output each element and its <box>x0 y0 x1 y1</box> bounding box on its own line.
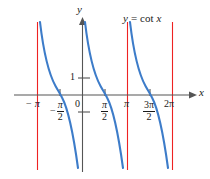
fraction-numerator: 3π <box>143 100 155 112</box>
x-axis-arrowhead <box>189 92 197 99</box>
cotangent-graph-figure: y = cot x y x 1 0 − π − π 2 π 2 <box>0 0 210 179</box>
x-tick-label-minus-pi-over-2: − π 2 <box>50 100 64 122</box>
graph-canvas <box>0 0 210 179</box>
x-tick-label-pi: π <box>124 99 129 109</box>
x-tick-label-2pi: 2π <box>164 99 174 109</box>
x-tick-label-zero: 0 <box>75 99 80 109</box>
x-tick-label-minus-pi: − π <box>26 99 40 109</box>
equation-label: y = cot x <box>123 13 161 24</box>
fraction-denominator: 2 <box>57 112 64 123</box>
fraction-numerator: π <box>101 100 108 112</box>
y-tick-label-one: 1 <box>70 72 75 82</box>
x-tick-label-pi-over-2: π 2 <box>101 100 108 122</box>
fraction-numerator: π <box>57 100 64 112</box>
pi-glyph: π <box>35 99 40 109</box>
minus-sign: − <box>50 106 56 116</box>
y-axis-label: y <box>77 4 82 15</box>
x-tick-label-3pi-over-2: 3π 2 <box>143 100 155 122</box>
fraction-denominator: 2 <box>143 112 155 123</box>
x-axis-label: x <box>199 87 204 98</box>
minus-sign: − <box>26 99 32 109</box>
equation-y: y <box>123 13 128 24</box>
equation-x: x <box>157 13 162 24</box>
equation-equals: = <box>131 13 137 24</box>
equation-cot: cot <box>140 13 153 24</box>
fraction-denominator: 2 <box>101 112 108 123</box>
